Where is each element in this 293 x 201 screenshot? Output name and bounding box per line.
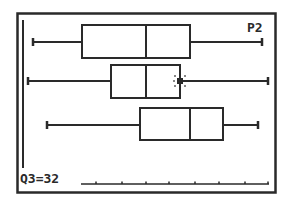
iqr-box	[82, 25, 190, 58]
x-axis	[81, 182, 269, 185]
box-plots	[28, 25, 268, 140]
iqr-box	[140, 108, 223, 140]
box-plot-p1	[33, 25, 262, 58]
box-plot-p2	[28, 65, 268, 98]
plot-label: P2	[247, 21, 263, 34]
box-plot-p3	[47, 108, 258, 140]
status-readout: Q3=32	[20, 172, 59, 185]
